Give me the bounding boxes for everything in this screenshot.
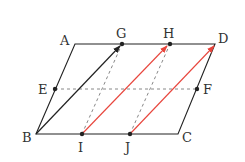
label-e: E (38, 82, 48, 97)
label-i: I (78, 140, 83, 155)
arrow-jd (130, 46, 214, 134)
arrow-ih (82, 46, 167, 134)
arrow-bg (36, 46, 120, 134)
point-g (120, 42, 124, 46)
label-g: G (116, 26, 126, 41)
label-h: H (163, 26, 174, 41)
label-a: A (59, 33, 70, 48)
label-b: B (22, 130, 32, 145)
point-e (53, 87, 57, 91)
point-f (195, 87, 199, 91)
label-f: F (203, 82, 212, 97)
label-d: D (218, 31, 228, 46)
label-c: C (182, 130, 192, 145)
parallelogram-diagram: A G H D E F B I J C (0, 0, 245, 162)
point-h (168, 42, 172, 46)
diagram-canvas: A G H D E F B I J C (0, 0, 245, 162)
point-j (128, 132, 132, 136)
point-i (80, 132, 84, 136)
label-j: J (123, 140, 130, 155)
